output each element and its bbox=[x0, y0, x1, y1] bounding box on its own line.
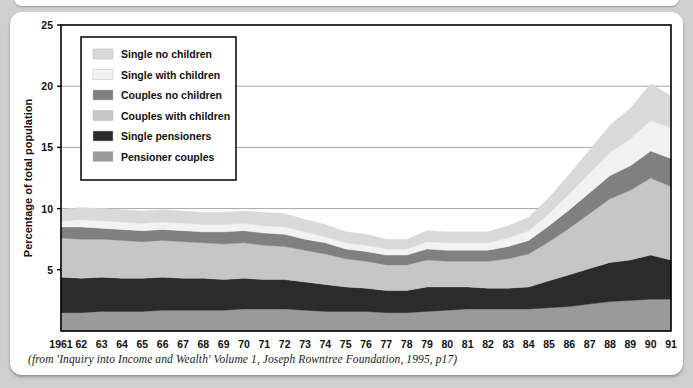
stacked-area-chart: 510152025 196162636465666768697071727374… bbox=[10, 12, 683, 375]
legend-label: Pensioner couples bbox=[121, 151, 215, 163]
x-tick-label: 81 bbox=[462, 338, 474, 350]
x-tick-label: 80 bbox=[441, 338, 453, 350]
y-tick-label: 25 bbox=[41, 19, 53, 31]
x-tick-label: 65 bbox=[136, 338, 148, 350]
x-tick-label: 75 bbox=[340, 338, 352, 350]
legend-label: Single with children bbox=[121, 69, 220, 81]
x-tick-label: 89 bbox=[624, 338, 636, 350]
figure-card: 510152025 196162636465666768697071727374… bbox=[10, 12, 683, 375]
upper-card-edge bbox=[14, 0, 679, 6]
x-tick-label: 68 bbox=[197, 338, 209, 350]
x-tick-label: 67 bbox=[177, 338, 189, 350]
legend-swatch bbox=[93, 111, 113, 121]
x-tick-label: 74 bbox=[319, 338, 331, 350]
x-tick-label: 85 bbox=[543, 338, 555, 350]
y-tick-label: 10 bbox=[41, 203, 53, 215]
legend-swatch bbox=[93, 70, 113, 80]
legend-label: Single no children bbox=[121, 48, 212, 60]
chart-svg: 510152025 196162636465666768697071727374… bbox=[10, 12, 683, 375]
x-tick-label: 83 bbox=[502, 338, 514, 350]
x-tick-label: 72 bbox=[279, 338, 291, 350]
legend-swatch bbox=[93, 49, 113, 59]
y-tick-labels-group: 510152025 bbox=[41, 19, 53, 276]
x-tick-label: 88 bbox=[604, 338, 616, 350]
figure-caption: (from 'Inquiry into Income and Wealth' V… bbox=[28, 353, 668, 365]
legend-label: Couples with children bbox=[121, 110, 230, 122]
x-tick-label: 64 bbox=[116, 338, 128, 350]
x-tick-labels-group: 1961626364656667686970717273747576777879… bbox=[49, 338, 677, 350]
x-tick-label: 87 bbox=[584, 338, 596, 350]
x-tick-label: 71 bbox=[258, 338, 270, 350]
legend-swatch bbox=[93, 90, 113, 100]
screenshot-root: 510152025 196162636465666768697071727374… bbox=[0, 0, 693, 388]
x-tick-label: 1961 bbox=[49, 338, 73, 350]
legend-group: Single no childrenSingle with childrenCo… bbox=[81, 37, 236, 180]
x-tick-label: 66 bbox=[157, 338, 169, 350]
x-tick-label: 90 bbox=[645, 338, 657, 350]
y-axis-title-group: Percentage of total population bbox=[22, 99, 34, 258]
x-tick-label: 63 bbox=[96, 338, 108, 350]
legend-label: Single pensioners bbox=[121, 130, 212, 142]
legend-swatch bbox=[93, 131, 113, 141]
x-tick-label: 69 bbox=[218, 338, 230, 350]
y-tick-label: 20 bbox=[41, 80, 53, 92]
x-tick-label: 70 bbox=[238, 338, 250, 350]
y-tick-label: 15 bbox=[41, 141, 53, 153]
x-tick-label: 77 bbox=[380, 338, 392, 350]
x-tick-label: 86 bbox=[563, 338, 575, 350]
legend-swatch bbox=[93, 152, 113, 162]
legend-label: Couples no children bbox=[121, 89, 222, 101]
x-tick-label: 78 bbox=[401, 338, 413, 350]
x-tick-label: 79 bbox=[421, 338, 433, 350]
x-tick-label: 84 bbox=[523, 338, 535, 350]
y-axis-title: Percentage of total population bbox=[22, 99, 34, 258]
x-tick-label: 82 bbox=[482, 338, 494, 350]
x-tick-label: 76 bbox=[360, 338, 372, 350]
y-tick-label: 5 bbox=[47, 264, 53, 276]
x-tick-label: 91 bbox=[665, 338, 677, 350]
x-tick-label: 73 bbox=[299, 338, 311, 350]
x-tick-label: 62 bbox=[75, 338, 87, 350]
